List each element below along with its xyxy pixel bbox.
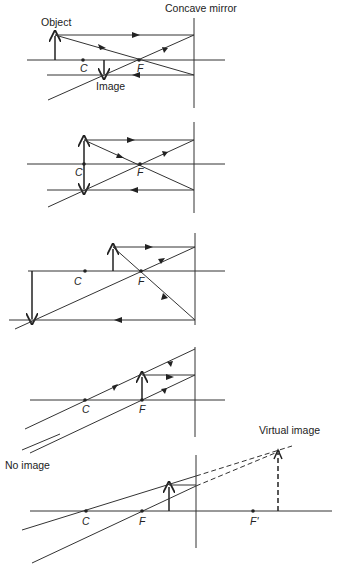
diagram-object-at-c: C F [27,122,225,213]
arrowhead [116,153,124,158]
object-label: Object [41,16,71,28]
arrowhead [112,384,118,391]
f-point [139,269,143,273]
arrowhead [162,47,168,53]
arrowhead [145,244,153,250]
diagram-object-beyond-c: Object Image C F [27,16,225,108]
c-point [82,162,86,166]
arrowhead [114,317,122,323]
c-point [83,269,87,273]
f-label: F [138,275,145,287]
image-label: Image [96,80,125,92]
ray-through-f [55,35,194,75]
ray-extension-lower [196,451,280,486]
c-point [84,509,88,513]
ray-reflected-through-f [15,247,195,329]
f-point [140,398,144,402]
diagram-object-inside-f: C F F' No image Virtual image [5,424,332,563]
ray-diagrams: Concave mirror Object Image C F [0,0,340,570]
f-label: F [139,515,146,527]
f-prime-label: F' [250,515,259,527]
ray-through-f [113,247,195,320]
arrowhead [167,361,173,367]
c-point [83,398,87,402]
arrowhead [130,187,138,193]
no-image-label: No image [5,459,50,471]
f-label: F [139,403,146,415]
c-label: C [82,403,90,415]
ray-reflected-upper [25,349,195,429]
f-label: F [137,166,144,178]
c-label: C [74,275,82,287]
ray-reflected-through-f [48,140,194,207]
f-label: F [137,62,144,74]
ray-through-f-reflected [32,486,196,563]
f-prime-point [251,509,255,513]
arrowhead [161,293,168,300]
f-point [140,509,144,513]
arrowhead [132,32,140,38]
diagram-object-between-c-and-f: C F [9,233,225,329]
mirror-title: Concave mirror [165,2,237,14]
arrowhead [127,137,135,143]
ray-through-c-reflected [22,476,196,530]
c-label: C [75,166,83,178]
c-label: C [80,62,88,74]
c-label: C [82,515,90,527]
diagram-object-at-f: C F [25,347,225,453]
virtual-image-label: Virtual image [259,424,320,436]
